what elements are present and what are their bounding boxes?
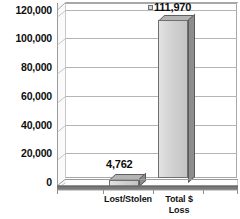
x-category-label-total-loss: Total $ Loss — [149, 194, 209, 216]
plot-floor — [57, 177, 238, 193]
y-tick-label: 0 — [46, 176, 52, 188]
bar-chart: 120,000 100,000 80,000 60,000 40,000 20,… — [0, 0, 240, 219]
x-tick-mark — [237, 190, 238, 194]
bar-total-loss — [158, 15, 196, 188]
gridline — [65, 38, 237, 39]
gridline — [65, 153, 237, 154]
y-tick-label: 60,000 — [21, 90, 52, 102]
y-tick-label: 100,000 — [15, 32, 52, 44]
gridline — [65, 67, 237, 68]
gridline — [65, 96, 237, 97]
gridline — [65, 125, 237, 126]
y-tick-label: 20,000 — [21, 147, 52, 159]
y-tick-label: 80,000 — [21, 61, 52, 73]
plot-back-wall — [65, 3, 237, 178]
y-tick-label: 40,000 — [21, 119, 52, 131]
data-point-marker-icon — [148, 5, 153, 10]
y-axis: 120,000 100,000 80,000 60,000 40,000 20,… — [0, 0, 57, 219]
data-label-total-loss-group: 111,970 — [148, 1, 191, 13]
data-label-lost-stolen: 4,762 — [106, 158, 133, 170]
gridline-depth-connectors — [57, 0, 67, 195]
y-tick-label: 120,000 — [15, 4, 52, 16]
plot-area: 4,762 111,970 Lost/Stolen Total $ Loss — [57, 0, 240, 219]
x-tick-mark — [57, 190, 58, 194]
data-label-total-loss: 111,970 — [154, 1, 191, 13]
